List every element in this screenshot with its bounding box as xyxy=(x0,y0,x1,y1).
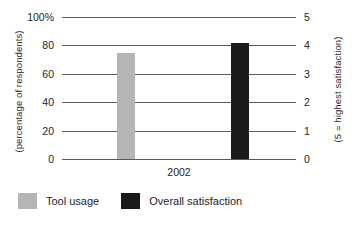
chart-legend: Tool usage Overall satisfaction xyxy=(18,193,242,209)
left-tick-label: 80 xyxy=(42,40,54,51)
left-tick-label: 20 xyxy=(42,126,54,137)
legend-item-overall-satisfaction: Overall satisfaction xyxy=(121,193,242,209)
gridline xyxy=(62,17,296,18)
legend-item-tool-usage: Tool usage xyxy=(18,193,99,209)
gridline xyxy=(62,45,296,46)
plot-area xyxy=(62,17,296,159)
gridline xyxy=(62,131,296,132)
right-tick-label: 5 xyxy=(304,12,310,23)
bar-overall-satisfaction xyxy=(231,43,249,159)
legend-label: Tool usage xyxy=(46,195,99,207)
gridline xyxy=(62,74,296,75)
right-tick-label: 4 xyxy=(304,40,310,51)
left-tick-label: 0 xyxy=(48,154,54,165)
right-tick-label: 2 xyxy=(304,97,310,108)
legend-swatch-icon xyxy=(18,193,37,209)
left-tick-label: 100% xyxy=(27,12,54,23)
legend-label: Overall satisfaction xyxy=(149,195,242,207)
bar-tool-usage xyxy=(117,53,135,160)
bar-chart: (percentage of respondents) (5 = highest… xyxy=(0,0,352,232)
right-axis-ticks: 5 4 3 2 1 0 xyxy=(300,0,346,232)
gridline xyxy=(62,102,296,103)
gridline xyxy=(62,159,296,160)
right-tick-label: 0 xyxy=(304,154,310,165)
legend-swatch-icon xyxy=(121,193,140,209)
left-tick-label: 40 xyxy=(42,97,54,108)
right-tick-label: 3 xyxy=(304,69,310,80)
left-tick-label: 60 xyxy=(42,69,54,80)
right-tick-label: 1 xyxy=(304,126,310,137)
x-axis-category-label: 2002 xyxy=(62,166,296,178)
